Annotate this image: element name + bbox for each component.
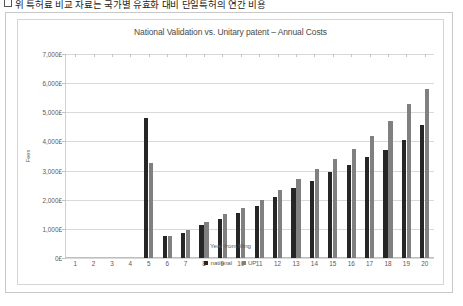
x-axis-tick-mark <box>314 54 315 57</box>
bar-UP-year-9 <box>223 214 227 258</box>
y-axis-label: Fees <box>25 150 31 162</box>
bar-group <box>66 54 84 258</box>
bar-national-year-19 <box>402 140 406 258</box>
bar-national-year-11 <box>255 206 259 258</box>
x-axis-tick-mark <box>241 54 242 57</box>
x-axis-tick-mark <box>351 54 352 57</box>
chart-legend: national UP <box>18 259 443 266</box>
bar-group <box>121 54 139 258</box>
x-axis-tick-mark <box>296 54 297 57</box>
bar-group <box>268 54 286 258</box>
checkbox-icon <box>4 0 12 7</box>
x-axis-tick-mark <box>333 54 334 57</box>
x-axis-tick-mark <box>130 54 131 57</box>
bar-group <box>250 54 268 258</box>
bar-group <box>305 54 323 258</box>
bar-UP-year-18 <box>388 121 392 258</box>
bar-group <box>140 54 158 258</box>
legend-item-national: national <box>204 259 232 266</box>
x-axis-tick-mark <box>94 54 95 57</box>
x-axis-tick-mark <box>204 54 205 57</box>
legend-swatch-up <box>242 261 246 265</box>
bar-UP-year-17 <box>370 136 374 258</box>
x-axis-tick-mark <box>186 54 187 57</box>
bar-group <box>158 54 176 258</box>
y-axis-tick-label: 7,000£ <box>2 51 62 58</box>
chart-container: National Validation vs. Unitary patent –… <box>17 19 444 285</box>
bar-group <box>232 54 250 258</box>
bar-group <box>324 54 342 258</box>
x-axis-tick-mark <box>388 54 389 57</box>
plot-area: Fees 0£1,000£2,000£3,000£4,000£5,000£6,0… <box>66 54 434 258</box>
y-axis-tick-label: 2,000£ <box>2 196 62 203</box>
x-axis-tick-mark <box>222 54 223 57</box>
x-axis-tick-mark <box>278 54 279 57</box>
bar-group <box>397 54 415 258</box>
figure-outer-frame: National Validation vs. Unitary patent –… <box>5 12 453 293</box>
bar-UP-year-11 <box>260 200 264 258</box>
y-axis-tick-label: 4,000£ <box>2 138 62 145</box>
bar-group <box>342 54 360 258</box>
x-axis-tick-mark <box>406 54 407 57</box>
chart-title: National Validation vs. Unitary patent –… <box>18 27 443 37</box>
bar-group <box>213 54 231 258</box>
bar-group <box>195 54 213 258</box>
legend-label-national: national <box>210 259 232 266</box>
page-caption: 위 특허료 비교 자료는 국가별 유효화 대비 단일특허의 연간 비용 <box>4 0 459 10</box>
bar-group <box>360 54 378 258</box>
bar-group <box>103 54 121 258</box>
bar-UP-year-19 <box>407 104 411 258</box>
y-axis-tick-label: 5,000£ <box>2 109 62 116</box>
legend-label-up: UP <box>248 259 257 266</box>
bar-UP-year-8 <box>204 222 208 258</box>
x-axis-label: Year from filing <box>18 242 443 249</box>
bar-group <box>176 54 194 258</box>
bar-group <box>416 54 434 258</box>
legend-item-up: UP <box>242 259 257 266</box>
bar-group <box>379 54 397 258</box>
x-axis-tick-mark <box>112 54 113 57</box>
bar-national-year-9 <box>218 219 222 258</box>
x-axis-tick-mark <box>75 54 76 57</box>
legend-swatch-national <box>204 261 208 265</box>
bar-national-year-10 <box>236 213 240 258</box>
bar-UP-year-20 <box>425 89 429 258</box>
y-axis-tick-label: 3,000£ <box>2 167 62 174</box>
x-axis-tick-mark <box>370 54 371 57</box>
x-axis-tick-mark <box>425 54 426 57</box>
y-axis-tick-label: 1,000£ <box>2 225 62 232</box>
caption-text: 위 특허료 비교 자료는 국가별 유효화 대비 단일특허의 연간 비용 <box>15 0 266 10</box>
bar-group <box>84 54 102 258</box>
bar-group <box>287 54 305 258</box>
x-axis-tick-mark <box>167 54 168 57</box>
y-axis-tick-label: 6,000£ <box>2 80 62 87</box>
bar-national-year-5 <box>144 118 148 258</box>
x-axis-tick-mark <box>259 54 260 57</box>
bar-UP-year-10 <box>241 208 245 258</box>
x-axis-tick-mark <box>149 54 150 57</box>
bar-national-year-20 <box>420 125 424 258</box>
